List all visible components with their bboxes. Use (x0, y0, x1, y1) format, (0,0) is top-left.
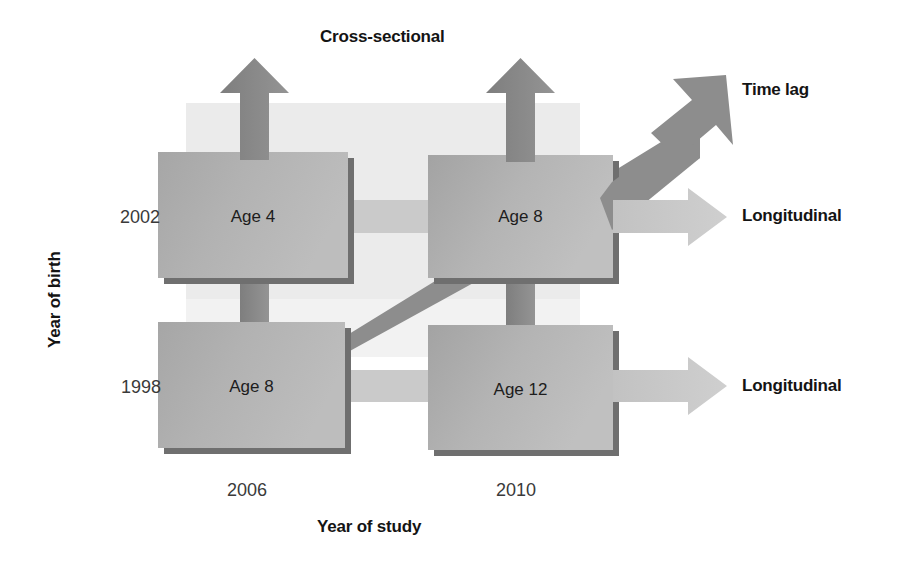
y-axis-label: Year of birth (46, 251, 63, 348)
x-axis-tick-2006: 2006 (227, 481, 267, 499)
design-label-cross-sectional: Cross-sectional (320, 28, 445, 45)
cell-label-age12: Age 12 (428, 380, 613, 400)
design-label-longitudinal-top: Longitudinal (742, 207, 842, 224)
diagram-figure: Age 4 Age 8 Age 8 Age 12 Cross-sectional… (0, 0, 913, 566)
cell-label-age8-2006: Age 8 (158, 377, 345, 397)
x-axis-tick-2010: 2010 (496, 481, 536, 499)
y-axis-tick-1998: 1998 (121, 378, 161, 396)
design-label-time-lag: Time lag (742, 81, 809, 98)
cell-label-age8-2010: Age 8 (428, 207, 613, 227)
design-label-longitudinal-bottom: Longitudinal (742, 377, 842, 394)
longitudinal-arrow-bottom-icon[interactable] (613, 357, 727, 415)
y-axis-tick-2002: 2002 (120, 208, 160, 226)
longitudinal-arrow-group (613, 188, 727, 415)
cell-label-age4: Age 4 (158, 207, 348, 227)
x-axis-label: Year of study (317, 518, 421, 535)
